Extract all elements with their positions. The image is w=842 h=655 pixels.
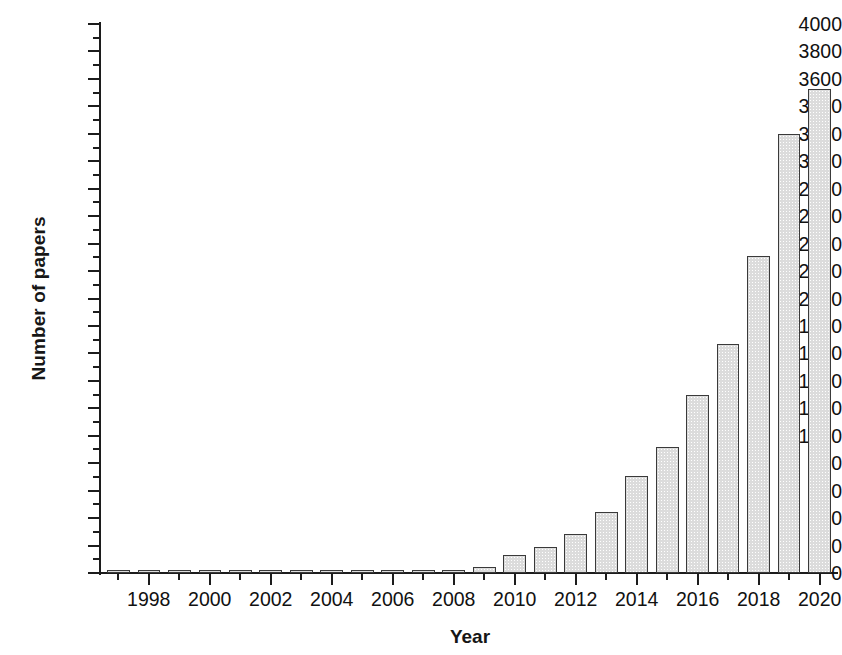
bar xyxy=(107,570,130,573)
x-tick-major xyxy=(148,574,150,585)
bar xyxy=(412,570,435,573)
bar xyxy=(656,447,679,573)
y-axis-title: Number of papers xyxy=(26,24,52,573)
x-tick-minor xyxy=(727,574,729,580)
y-tick-label: 3800 xyxy=(758,40,842,63)
y-tick-minor xyxy=(93,201,99,203)
y-tick-major xyxy=(88,407,99,409)
y-tick-minor xyxy=(93,421,99,423)
y-tick-major xyxy=(88,490,99,492)
y-tick-major xyxy=(88,50,99,52)
y-tick-minor xyxy=(93,37,99,39)
bar xyxy=(320,570,343,573)
y-tick-minor xyxy=(93,366,99,368)
y-tick-minor xyxy=(93,558,99,560)
y-tick-major xyxy=(88,352,99,354)
x-tick-minor xyxy=(788,574,790,580)
y-tick-major xyxy=(88,462,99,464)
x-tick-label: 2020 xyxy=(780,588,842,611)
x-tick-major xyxy=(575,574,577,585)
y-tick-minor xyxy=(93,311,99,313)
y-tick-major xyxy=(88,435,99,437)
bar xyxy=(442,570,465,573)
x-tick-major xyxy=(758,574,760,585)
y-tick-major xyxy=(88,160,99,162)
y-tick-label: 4000 xyxy=(758,13,842,36)
y-tick-minor xyxy=(93,284,99,286)
y-tick-label: 3600 xyxy=(758,68,842,91)
x-tick-major xyxy=(392,574,394,585)
y-tick-major xyxy=(88,545,99,547)
y-tick-major xyxy=(88,188,99,190)
x-tick-minor xyxy=(422,574,424,580)
bar xyxy=(595,512,618,573)
bar xyxy=(199,570,222,573)
y-tick-minor xyxy=(93,92,99,94)
y-tick-minor xyxy=(93,476,99,478)
bar xyxy=(259,570,282,573)
x-tick-minor xyxy=(544,574,546,580)
y-tick-minor xyxy=(93,174,99,176)
bar xyxy=(534,547,557,573)
y-tick-major xyxy=(88,133,99,135)
y-tick-major xyxy=(88,78,99,80)
bar xyxy=(808,89,831,573)
x-tick-major xyxy=(453,574,455,585)
y-tick-minor xyxy=(93,339,99,341)
x-tick-minor xyxy=(483,574,485,580)
y-tick-minor xyxy=(93,448,99,450)
x-tick-minor xyxy=(117,574,119,580)
bar xyxy=(473,567,496,573)
bar xyxy=(168,570,191,573)
y-tick-minor xyxy=(93,531,99,533)
x-tick-minor xyxy=(300,574,302,580)
y-tick-major xyxy=(88,572,99,574)
x-tick-major xyxy=(636,574,638,585)
y-tick-major xyxy=(88,380,99,382)
y-tick-major xyxy=(88,23,99,25)
x-tick-minor xyxy=(361,574,363,580)
x-tick-major xyxy=(514,574,516,585)
x-tick-minor xyxy=(666,574,668,580)
bar xyxy=(229,570,252,573)
x-tick-major xyxy=(270,574,272,585)
bar-chart-figure: Number of papers Year 020040060080010001… xyxy=(0,0,842,655)
x-tick-minor xyxy=(239,574,241,580)
bar xyxy=(381,570,404,573)
bar xyxy=(778,134,801,573)
y-tick-minor xyxy=(93,64,99,66)
bar xyxy=(564,534,587,573)
y-tick-major xyxy=(88,517,99,519)
x-tick-minor xyxy=(605,574,607,580)
bar xyxy=(290,570,313,573)
y-tick-minor xyxy=(93,503,99,505)
y-tick-minor xyxy=(93,394,99,396)
y-tick-minor xyxy=(93,256,99,258)
y-tick-major xyxy=(88,105,99,107)
y-tick-major xyxy=(88,215,99,217)
x-tick-minor xyxy=(178,574,180,580)
bar xyxy=(747,256,770,573)
bar xyxy=(717,344,740,573)
y-tick-minor xyxy=(93,229,99,231)
x-tick-major xyxy=(209,574,211,585)
y-tick-minor xyxy=(93,147,99,149)
bar xyxy=(625,476,648,573)
y-tick-minor xyxy=(93,119,99,121)
bar xyxy=(686,395,709,573)
y-tick-major xyxy=(88,243,99,245)
x-tick-major xyxy=(819,574,821,585)
bar xyxy=(138,570,161,573)
y-tick-major xyxy=(88,270,99,272)
y-axis-line xyxy=(99,22,101,575)
x-axis-title: Year xyxy=(100,626,840,648)
x-tick-major xyxy=(697,574,699,585)
y-tick-major xyxy=(88,325,99,327)
y-tick-major xyxy=(88,298,99,300)
bar xyxy=(503,555,526,573)
x-tick-major xyxy=(331,574,333,585)
bar xyxy=(351,570,374,573)
